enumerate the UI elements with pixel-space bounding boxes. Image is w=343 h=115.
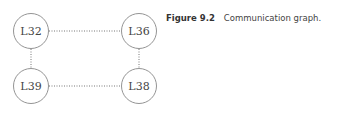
node-l38: L38 — [122, 69, 157, 104]
figure-caption-text: Communication graph. — [224, 13, 321, 23]
node-label: L39 — [20, 80, 41, 93]
node-l32: L32 — [14, 14, 49, 49]
figure-caption: Figure 9.2Communication graph. — [166, 13, 321, 23]
node-label: L36 — [128, 25, 149, 38]
node-l39: L39 — [14, 69, 49, 104]
node-l36: L36 — [122, 14, 157, 49]
figure-number: Figure 9.2 — [166, 13, 215, 23]
node-label: L32 — [20, 25, 41, 38]
node-label: L38 — [128, 80, 149, 93]
